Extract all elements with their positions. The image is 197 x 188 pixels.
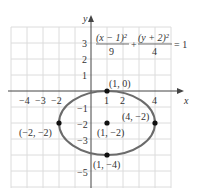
- graph-canvas: y x −4 −3 −2 1 2 4 3 2 1 −1 −2 −3 −5 (1,…: [0, 0, 197, 188]
- y-tick: 2: [82, 54, 87, 65]
- equation-term1-denominator: 9: [109, 46, 114, 57]
- y-axis-label: y: [82, 13, 88, 24]
- equation-term2-numerator: (y + 2)²: [138, 32, 170, 44]
- x-tick: −3: [35, 95, 46, 106]
- point-label: (1, −4): [93, 159, 120, 171]
- y-axis-arrow-icon: [88, 15, 94, 22]
- point-left: [56, 120, 61, 125]
- point-label: (1, 0): [109, 78, 131, 90]
- point-top: [104, 88, 109, 93]
- equation-term1-numerator: (x − 1)²: [96, 32, 128, 44]
- x-tick: 4: [152, 95, 157, 106]
- equation-term2-denominator: 4: [152, 46, 157, 57]
- x-tick: −2: [51, 95, 62, 106]
- point-label: (−2, −2): [19, 127, 52, 139]
- equation-rhs: = 1: [174, 39, 187, 50]
- y-tick: 1: [82, 70, 87, 81]
- y-tick: −1: [77, 103, 88, 114]
- point-bottom: [104, 152, 109, 157]
- equation: (x − 1)² 9 + (y + 2)² 4 = 1: [96, 32, 187, 57]
- x-tick: −4: [19, 95, 30, 106]
- ellipse-diagram: y x −4 −3 −2 1 2 4 3 2 1 −1 −2 −3 −5 (1,…: [0, 0, 197, 188]
- y-tick: −3: [77, 135, 88, 146]
- point-label: (4, −2): [122, 111, 149, 123]
- point-center: [104, 120, 109, 125]
- equation-plus: +: [131, 39, 137, 50]
- x-tick: 1: [104, 95, 109, 106]
- x-axis-label: x: [183, 95, 189, 106]
- x-tick: 2: [120, 95, 125, 106]
- x-axis-arrow-icon: [177, 88, 184, 94]
- point-label: (1, −2): [97, 127, 124, 139]
- point-right: [152, 120, 157, 125]
- y-tick: −2: [77, 119, 88, 130]
- y-tick: −5: [77, 167, 88, 178]
- y-tick: 3: [82, 38, 87, 49]
